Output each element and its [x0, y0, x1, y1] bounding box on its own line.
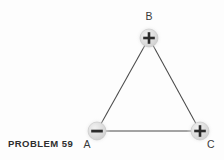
node-label-a: A — [83, 138, 90, 150]
figure-container: B A C PROBLEM 59 — [0, 0, 224, 160]
node-label-b: B — [145, 10, 152, 22]
node-c-plus-vertical — [199, 125, 202, 137]
node-label-c: C — [207, 138, 215, 150]
edge-b-c — [149, 38, 200, 131]
problem-caption: PROBLEM 59 — [8, 138, 73, 149]
node-a-minus-bar — [91, 130, 103, 133]
node-b-plus-vertical — [148, 32, 151, 44]
charge-triangle-diagram: B A C PROBLEM 59 — [0, 0, 224, 160]
triangle-edges — [97, 38, 200, 131]
node-b[interactable] — [136, 25, 163, 52]
edge-a-b — [97, 38, 149, 131]
